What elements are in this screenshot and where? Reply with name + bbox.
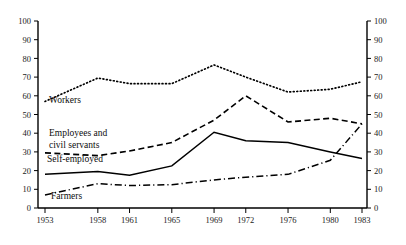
right-axis-tick-label: 100	[374, 16, 387, 26]
series-labels: WorkersEmployees andcivil servantsSelf-e…	[47, 95, 108, 201]
series-label-self-employed: Self-employed	[47, 154, 103, 164]
bottom-axis-tick-label: 1961	[121, 215, 138, 225]
right-axis-tick-label: 20	[374, 166, 383, 176]
bottom-axis-tick-label: 1953	[37, 215, 54, 225]
left-axis-tick-label: 40	[23, 128, 32, 138]
bottom-axis-tick-label: 1972	[237, 215, 254, 225]
bottom-axis-tick-label: 1958	[89, 215, 106, 225]
right-axis-tick-label: 60	[374, 91, 383, 101]
left-axis-tick-label: 70	[23, 72, 32, 82]
series-label-employees-and-civil-servants: Employees and	[49, 128, 108, 138]
right-axis-tick-label: 50	[374, 110, 383, 120]
right-axis-tick-label: 10	[374, 184, 383, 194]
bottom-axis-tick-label: 1983	[354, 215, 371, 225]
right-axis-tick-label: 70	[374, 72, 383, 82]
left-axis-tick-label: 100	[18, 16, 31, 26]
right-axis-tick-label: 80	[374, 54, 383, 64]
left-axis-tick-label: 10	[23, 184, 32, 194]
bottom-axis: 195319581961196519691972197619801983	[37, 208, 371, 225]
left-axis: 0102030405060708090100	[18, 16, 38, 213]
left-axis-tick-label: 20	[23, 166, 32, 176]
series-line-workers	[45, 65, 362, 101]
left-axis-tick-label: 60	[23, 91, 32, 101]
right-axis-tick-label: 30	[374, 147, 383, 157]
right-axis-tick-label: 90	[374, 35, 383, 45]
right-axis-tick-label: 40	[374, 128, 383, 138]
left-axis-tick-label: 30	[23, 147, 32, 157]
bottom-axis-tick-label: 1976	[280, 215, 297, 225]
left-axis-tick-label: 80	[23, 54, 32, 64]
series-label-employees-and-civil-servants: civil servants	[49, 140, 100, 150]
right-axis: 0102030405060708090100	[367, 16, 387, 213]
right-axis-tick-label: 0	[374, 203, 378, 213]
bottom-axis-tick-label: 1969	[206, 215, 223, 225]
left-axis-tick-label: 90	[23, 35, 32, 45]
series-label-farmers: Farmers	[51, 191, 82, 201]
series-label-workers: Workers	[49, 95, 81, 105]
bottom-axis-tick-label: 1980	[322, 215, 339, 225]
line-chart: 0102030405060708090100 01020304050607080…	[0, 0, 406, 245]
left-axis-tick-label: 0	[27, 203, 31, 213]
left-axis-tick-label: 50	[23, 110, 32, 120]
bottom-axis-tick-label: 1965	[163, 215, 180, 225]
